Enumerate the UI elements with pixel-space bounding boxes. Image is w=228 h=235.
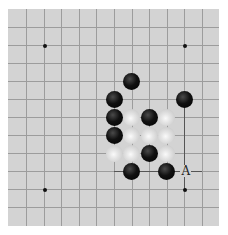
white-stone[interactable] (106, 145, 123, 162)
white-stone[interactable] (141, 127, 158, 144)
black-stone[interactable] (106, 109, 123, 126)
star-point (183, 44, 187, 48)
grid-line-horizontal (8, 27, 219, 28)
star-point (183, 188, 187, 192)
white-stone[interactable] (158, 127, 175, 144)
black-stone[interactable] (141, 145, 158, 162)
grid-line-horizontal (8, 63, 219, 64)
black-stone[interactable] (123, 73, 140, 90)
white-stone[interactable] (158, 145, 175, 162)
grid-line-horizontal (8, 81, 219, 82)
black-stone[interactable] (176, 91, 193, 108)
white-stone[interactable] (123, 127, 140, 144)
white-stone[interactable] (123, 109, 140, 126)
grid-line-horizontal (8, 189, 219, 190)
grid-line-horizontal (8, 45, 219, 46)
black-stone[interactable] (123, 163, 140, 180)
grid-line-horizontal (8, 207, 219, 208)
white-stone[interactable] (158, 109, 175, 126)
white-stone[interactable] (123, 145, 140, 162)
black-stone[interactable] (106, 91, 123, 108)
black-stone[interactable] (106, 127, 123, 144)
star-point (43, 188, 47, 192)
black-stone[interactable] (141, 109, 158, 126)
black-stone[interactable] (158, 163, 175, 180)
point-label: A (180, 165, 191, 177)
go-board[interactable]: A (8, 9, 219, 226)
star-point (43, 44, 47, 48)
